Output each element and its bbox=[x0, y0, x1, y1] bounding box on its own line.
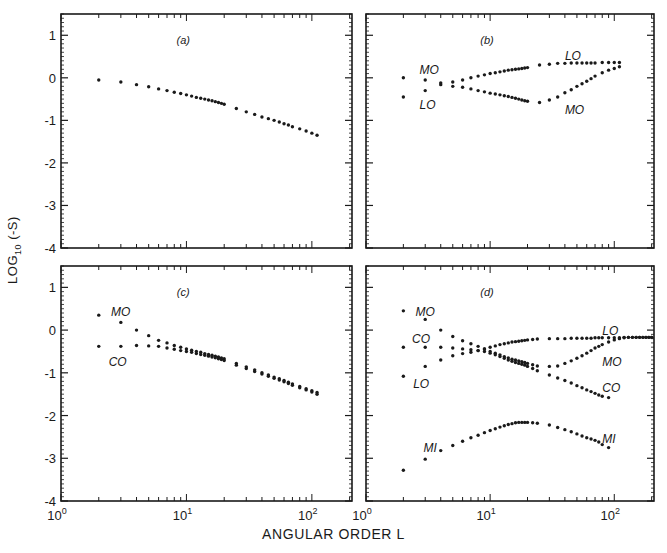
data-point bbox=[278, 378, 281, 381]
data-point bbox=[607, 446, 610, 449]
data-point bbox=[548, 365, 551, 368]
data-point bbox=[157, 87, 160, 90]
data-point bbox=[536, 369, 539, 372]
data-point bbox=[476, 74, 479, 77]
data-point bbox=[503, 342, 506, 345]
data-point bbox=[514, 361, 517, 364]
data-point bbox=[597, 336, 600, 339]
data-point bbox=[469, 87, 472, 90]
data-point bbox=[424, 365, 427, 368]
data-point bbox=[199, 353, 202, 356]
data-point bbox=[424, 89, 427, 92]
data-point bbox=[157, 345, 160, 348]
data-point bbox=[593, 346, 596, 349]
data-point bbox=[556, 364, 559, 367]
data-point bbox=[272, 377, 275, 380]
data-point bbox=[253, 370, 256, 373]
data-point bbox=[498, 93, 501, 96]
data-point bbox=[97, 78, 100, 81]
data-point bbox=[510, 340, 513, 343]
data-point bbox=[498, 343, 501, 346]
data-point bbox=[563, 91, 566, 94]
data-point bbox=[548, 98, 551, 101]
data-point bbox=[298, 127, 301, 130]
data-point bbox=[601, 71, 604, 74]
data-point bbox=[494, 92, 497, 95]
data-point bbox=[173, 344, 176, 347]
data-point bbox=[601, 343, 604, 346]
data-point bbox=[531, 367, 534, 370]
data-point bbox=[210, 99, 213, 102]
data-point bbox=[526, 338, 529, 341]
data-point bbox=[631, 336, 634, 339]
figure: 10-1-2-3-4(a)(b)MOLOLOMO10-1-2-3-4100101… bbox=[0, 0, 667, 553]
plot-canvas: 10-1-2-3-4(a)(b)MOLOLOMO10-1-2-3-4100101… bbox=[0, 0, 667, 553]
data-point bbox=[402, 375, 405, 378]
data-point bbox=[510, 96, 513, 99]
data-point bbox=[287, 382, 290, 385]
series-label: LO bbox=[602, 324, 618, 338]
data-point bbox=[517, 67, 520, 70]
data-point bbox=[589, 77, 592, 80]
data-point bbox=[575, 337, 578, 340]
data-point bbox=[593, 74, 596, 77]
panel-b: (b)MOLOLOMO bbox=[366, 14, 654, 248]
data-point bbox=[601, 395, 604, 398]
y-tick-label: -2 bbox=[44, 409, 56, 424]
data-point bbox=[510, 68, 513, 71]
data-point bbox=[622, 336, 625, 339]
y-axis-label-subscript: 10 bbox=[13, 244, 23, 255]
data-point bbox=[520, 98, 523, 101]
data-point bbox=[589, 337, 592, 340]
data-point bbox=[531, 421, 534, 424]
y-tick-label: -4 bbox=[44, 241, 56, 256]
data-point bbox=[494, 427, 497, 430]
data-point bbox=[402, 76, 405, 79]
data-point bbox=[593, 392, 596, 395]
y-tick-label: -1 bbox=[44, 113, 56, 128]
data-point bbox=[476, 89, 479, 92]
data-point bbox=[548, 63, 551, 66]
data-point bbox=[607, 61, 610, 64]
data-point bbox=[260, 115, 263, 118]
series-label: CO bbox=[412, 332, 430, 346]
data-point bbox=[210, 355, 213, 358]
data-point bbox=[585, 436, 588, 439]
data-point bbox=[570, 381, 573, 384]
data-point bbox=[585, 388, 588, 391]
data-point bbox=[503, 357, 506, 360]
y-tick-label: 1 bbox=[49, 280, 56, 295]
data-point bbox=[548, 373, 551, 376]
data-point bbox=[190, 94, 193, 97]
data-point bbox=[644, 336, 647, 339]
data-point bbox=[119, 80, 122, 83]
data-point bbox=[439, 328, 442, 331]
data-point bbox=[563, 337, 566, 340]
data-point bbox=[575, 357, 578, 360]
data-point bbox=[483, 347, 486, 350]
data-point bbox=[520, 421, 523, 424]
data-point bbox=[494, 71, 497, 74]
series-label: MO bbox=[602, 355, 621, 369]
data-point bbox=[483, 431, 486, 434]
series-label: MI bbox=[602, 432, 616, 446]
data-point bbox=[517, 97, 520, 100]
data-point bbox=[315, 392, 318, 395]
data-point bbox=[424, 457, 427, 460]
data-point bbox=[601, 61, 604, 64]
data-point bbox=[287, 123, 290, 126]
data-point bbox=[556, 95, 559, 98]
data-point bbox=[536, 337, 539, 340]
data-point bbox=[222, 359, 225, 362]
data-point bbox=[185, 93, 188, 96]
data-point bbox=[488, 351, 491, 354]
data-point bbox=[563, 428, 566, 431]
data-point bbox=[291, 125, 294, 128]
y-tick-label: -4 bbox=[44, 494, 56, 509]
data-point bbox=[451, 80, 454, 83]
data-point bbox=[488, 429, 491, 432]
data-point bbox=[526, 100, 529, 103]
y-tick-label: -3 bbox=[44, 198, 56, 213]
data-point bbox=[253, 113, 256, 116]
data-point bbox=[476, 434, 479, 437]
